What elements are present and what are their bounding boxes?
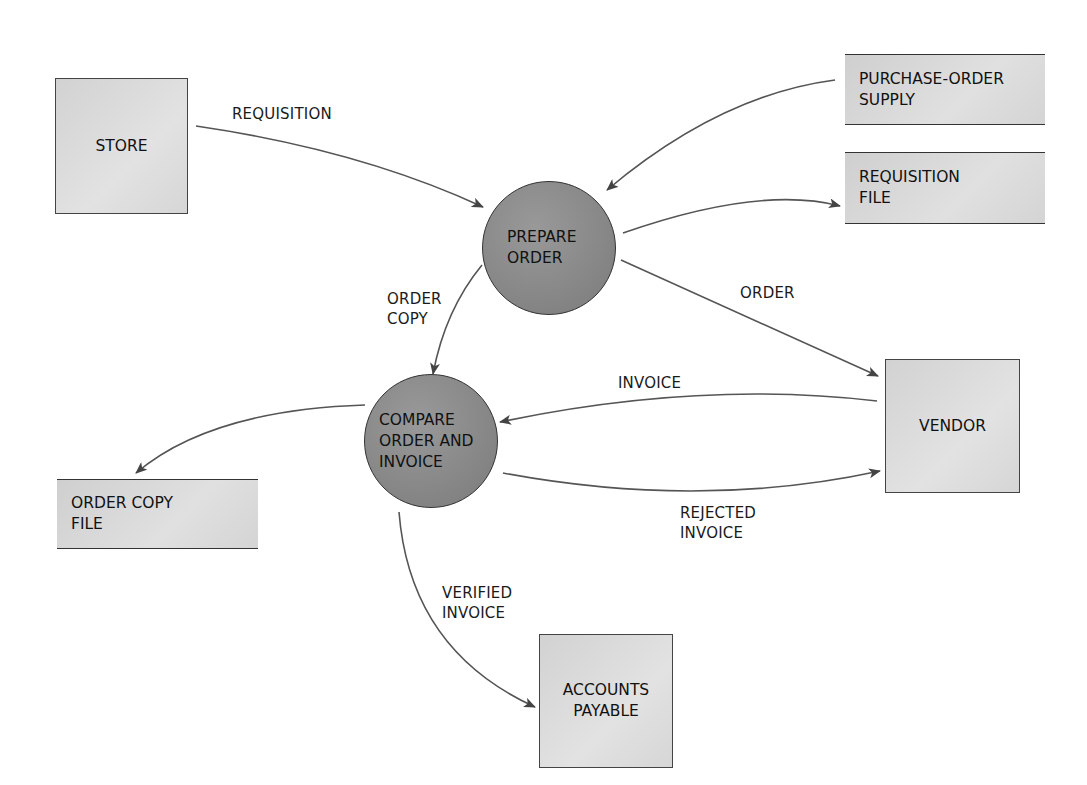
datastore-order-copy-file[interactable]: ORDER COPY FILE xyxy=(57,479,258,549)
process-compare-label-line1: COMPARE xyxy=(379,410,455,431)
flow-label-order-copy-line2: COPY xyxy=(387,309,442,329)
entity-vendor[interactable]: VENDOR xyxy=(885,359,1020,493)
process-prepare-order[interactable]: PREPARE ORDER xyxy=(482,181,616,315)
flow-rejected-invoice-arrow xyxy=(503,471,880,491)
data-flow-diagram: STORE VENDOR ACCOUNTS PAYABLE PURCHASE-O… xyxy=(0,0,1087,785)
entity-vendor-label: VENDOR xyxy=(919,416,986,437)
datastore-order-copy-file-label-line1: ORDER COPY xyxy=(71,493,258,514)
datastore-req-file-label-line2: FILE xyxy=(859,188,1045,209)
flow-order-arrow xyxy=(621,260,878,376)
datastore-purchase-order-supply[interactable]: PURCHASE-ORDER SUPPLY xyxy=(845,54,1045,125)
flow-label-order-text: ORDER xyxy=(740,284,795,302)
datastore-req-file-label-line1: REQUISITION xyxy=(859,167,1045,188)
flow-invoice-arrow xyxy=(500,394,877,422)
entity-accounts-payable-label-line2: PAYABLE xyxy=(573,701,639,722)
flow-requisition-arrow xyxy=(196,126,483,207)
datastore-po-supply-label-line1: PURCHASE-ORDER xyxy=(859,69,1045,90)
flow-label-invoice: INVOICE xyxy=(618,373,681,393)
datastore-order-copy-file-label-line2: FILE xyxy=(71,514,258,535)
process-compare-label-line2: ORDER AND xyxy=(379,431,474,452)
entity-accounts-payable-label-line1: ACCOUNTS xyxy=(563,680,649,701)
flow-label-requisition-text: REQUISITION xyxy=(232,105,332,123)
datastore-po-supply-label-line2: SUPPLY xyxy=(859,90,1045,111)
flow-label-invoice-text: INVOICE xyxy=(618,374,681,392)
flow-label-requisition: REQUISITION xyxy=(232,104,332,124)
flow-label-verified-invoice-line2: INVOICE xyxy=(442,603,512,623)
flow-order-copy-file-arrow xyxy=(136,405,365,473)
flow-label-order-copy: ORDER COPY xyxy=(387,289,442,329)
process-compare-label-line3: INVOICE xyxy=(379,452,443,473)
flow-label-verified-invoice-line1: VERIFIED xyxy=(442,583,512,603)
flow-label-order-copy-line1: ORDER xyxy=(387,289,442,309)
entity-store-label: STORE xyxy=(95,136,147,157)
flow-po-supply-arrow xyxy=(607,80,835,190)
flow-req-file-arrow xyxy=(623,200,840,233)
entity-store[interactable]: STORE xyxy=(55,78,188,214)
process-compare-order-and-invoice[interactable]: COMPARE ORDER AND INVOICE xyxy=(364,374,498,508)
entity-accounts-payable[interactable]: ACCOUNTS PAYABLE xyxy=(539,634,673,768)
flow-label-rejected-invoice-line1: REJECTED xyxy=(680,503,756,523)
process-prepare-order-label-line1: PREPARE xyxy=(507,227,576,248)
datastore-requisition-file[interactable]: REQUISITION FILE xyxy=(845,152,1045,224)
process-prepare-order-label-line2: ORDER xyxy=(507,248,562,269)
flow-label-verified-invoice: VERIFIED INVOICE xyxy=(442,583,512,623)
flow-label-rejected-invoice-line2: INVOICE xyxy=(680,523,756,543)
flow-label-order: ORDER xyxy=(740,283,795,303)
flow-label-rejected-invoice: REJECTED INVOICE xyxy=(680,503,756,543)
